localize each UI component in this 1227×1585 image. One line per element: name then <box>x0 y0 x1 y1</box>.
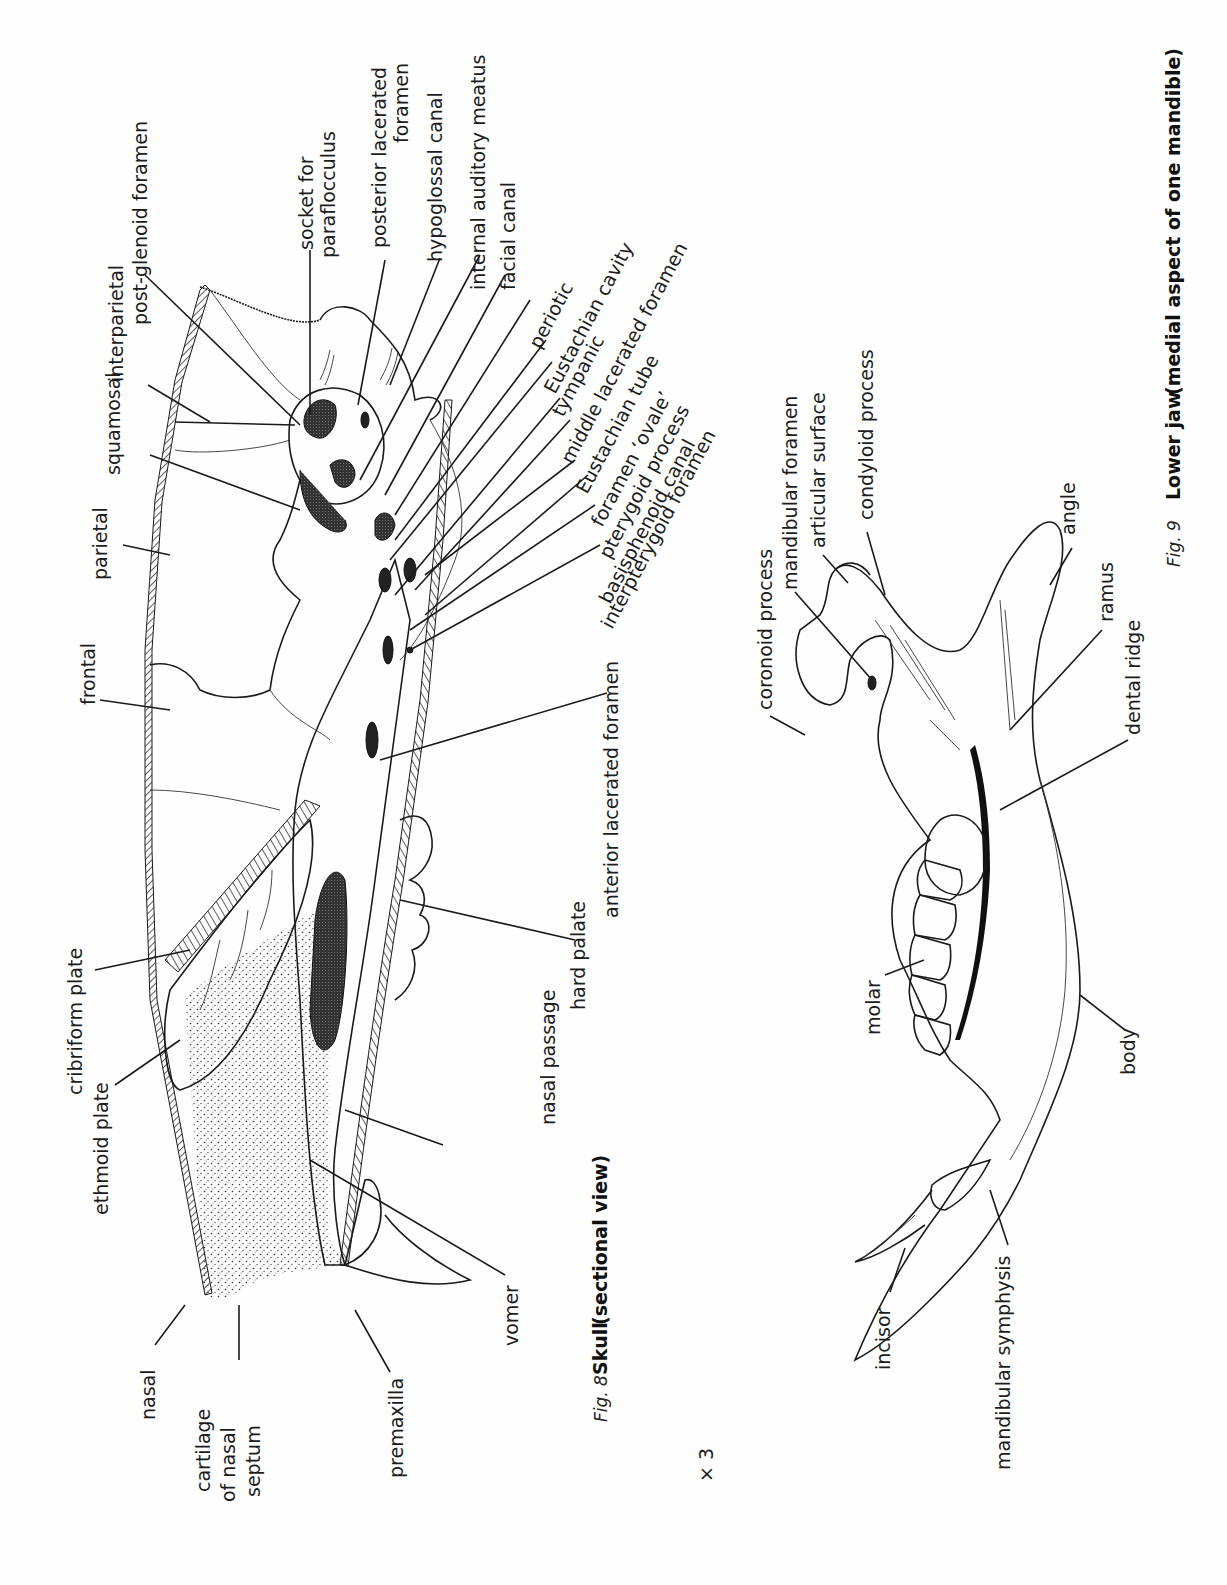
label-internal-auditory-meatus: internal auditory meatus <box>467 55 489 290</box>
label-vomer: vomer <box>500 1285 522 1346</box>
label-socket-for: socket for <box>295 156 317 250</box>
scale-mark-text: × 3 <box>695 1448 717 1482</box>
label-nasal: nasal <box>137 1369 159 1420</box>
figure9-number: Fig. 9 <box>1164 520 1184 567</box>
molar-teeth <box>909 815 986 1055</box>
figure8-title: Skull <box>589 1322 611 1375</box>
label-coronoid-process: coronoid process <box>754 549 776 710</box>
label-posterior-lacerated: posterior lacerated <box>368 67 390 248</box>
label-facial-canal: facial canal <box>497 182 519 290</box>
figure8-caption: Fig. 8 Skull (sectional view) <box>589 1155 611 1422</box>
textbook-page: socket for paraflocculus posterior lacer… <box>0 0 1227 1585</box>
label-paraflocculus: paraflocculus <box>317 131 339 258</box>
label-foramen: foramen <box>390 63 412 143</box>
mandible-labels: coronoid process mandibular foramen arti… <box>754 349 1144 1470</box>
figure9-subtitle: (medial aspect of one mandible) <box>1162 48 1184 395</box>
label-post-glenoid-foramen: post-glenoid foramen <box>129 121 151 325</box>
figure8-subtitle: (sectional view) <box>589 1155 611 1325</box>
figure9-caption: Fig. 9 Lower jaw (medial aspect of one m… <box>1162 48 1184 567</box>
label-mandibular-symphysis: mandibular symphysis <box>992 1256 1014 1470</box>
label-nasal-passage: nasal passage <box>537 990 559 1125</box>
label-incisor: incisor <box>872 1307 894 1370</box>
label-mandibular-foramen: mandibular foramen <box>779 396 801 590</box>
figure9-title: Lower jaw <box>1162 392 1184 500</box>
label-ethmoid-plate: ethmoid plate <box>90 1082 112 1215</box>
label-ramus: ramus <box>1095 562 1117 622</box>
figure8-number: Fig. 8 <box>591 1375 611 1422</box>
scale-mark: × 3 <box>695 1448 717 1482</box>
skull-drawing <box>145 285 470 1298</box>
label-of-nasal: of nasal <box>217 1427 239 1502</box>
label-articular-surface: articular surface <box>807 392 829 548</box>
label-premaxilla: premaxilla <box>385 1378 407 1478</box>
label-septum: septum <box>242 1425 264 1497</box>
label-cartilage: cartilage <box>192 1409 214 1492</box>
label-angle: angle <box>1057 482 1079 535</box>
anatomy-figures: socket for paraflocculus posterior lacer… <box>0 0 1227 1585</box>
label-parietal: parietal <box>89 507 111 580</box>
label-hard-palate: hard palate <box>567 901 589 1010</box>
label-squamosal: squamosal <box>102 372 124 475</box>
skull-labels: socket for paraflocculus posterior lacer… <box>64 55 720 1502</box>
label-hypoglossal-canal: hypoglossal canal <box>424 92 446 262</box>
label-body: body <box>1117 1028 1139 1075</box>
label-interparietal: interparietal <box>105 265 127 382</box>
label-dental-ridge: dental ridge <box>1122 620 1144 735</box>
mandible-drawing <box>796 522 1080 1360</box>
label-cribriform-plate: cribriform plate <box>64 948 86 1095</box>
label-condyloid-process: condyloid process <box>855 349 877 520</box>
label-anterior-lacerated-foramen: anterior lacerated foramen <box>600 661 622 918</box>
mandible-leader-lines <box>770 532 1128 1292</box>
label-molar: molar <box>862 980 884 1035</box>
label-frontal: frontal <box>77 643 99 705</box>
